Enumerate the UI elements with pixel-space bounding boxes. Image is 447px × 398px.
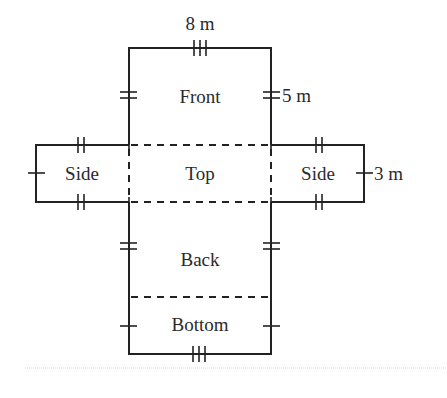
face-label-back: Back: [180, 249, 220, 270]
face-label-top: Top: [185, 163, 214, 184]
face-label-bottom: Bottom: [171, 314, 228, 335]
face-label-front: Front: [179, 86, 221, 107]
dimension-length: 8 m: [185, 13, 214, 34]
face-label-side-right: Side: [301, 163, 335, 184]
face-label-side-left: Side: [65, 163, 99, 184]
dimension-height: 5 m: [282, 85, 311, 106]
dimension-width: 3 m: [374, 163, 403, 184]
prism-net-diagram: Front Top Side Side Back Bottom 8 m 5 m …: [0, 0, 447, 398]
